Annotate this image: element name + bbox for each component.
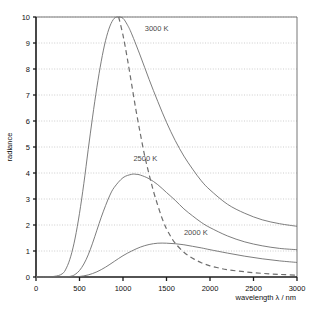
- y-tick-label: 9: [26, 39, 30, 48]
- x-tick-label: 2500: [245, 284, 262, 293]
- y-tick-label: 1: [26, 247, 30, 256]
- x-tick-label: 500: [73, 284, 86, 293]
- x-tick-label: 0: [34, 284, 38, 293]
- blackbody-radiance-chart: 012345678910050010001500200025003000 300…: [0, 0, 314, 309]
- series-label: 3000 K: [145, 24, 169, 33]
- y-tick-label: 4: [26, 169, 30, 178]
- chart-canvas: 012345678910050010001500200025003000 300…: [0, 0, 314, 309]
- y-tick-label: 5: [26, 143, 30, 152]
- y-tick-label: 6: [26, 117, 30, 126]
- series-label: 2500 K: [133, 154, 157, 163]
- y-tick-label: 10: [22, 13, 30, 22]
- y-tick-label: 8: [26, 65, 30, 74]
- x-tick-label: 2000: [202, 284, 219, 293]
- y-tick-label: 7: [26, 91, 30, 100]
- x-axis-title: wavelength λ / nm: [235, 293, 296, 302]
- y-tick-label: 3: [26, 195, 30, 204]
- x-tick-label: 1500: [158, 284, 175, 293]
- x-tick-label: 1000: [115, 284, 132, 293]
- y-axis-title: radiance: [5, 133, 14, 162]
- x-tick-label: 3000: [289, 284, 306, 293]
- y-tick-label: 2: [26, 221, 30, 230]
- series-label: 2000 K: [184, 228, 208, 237]
- y-tick-label: 0: [26, 273, 30, 282]
